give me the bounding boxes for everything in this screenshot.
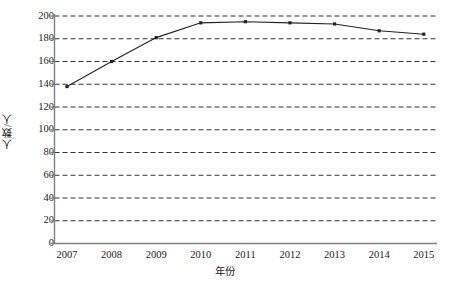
x-tick-label: 2010	[179, 249, 223, 260]
line-chart: 人数/人 020406080100120140160180200 2007200…	[0, 0, 449, 285]
x-axis-title: 年份	[0, 266, 449, 278]
x-tick-label: 2013	[313, 249, 357, 260]
x-tick-label: 2009	[134, 249, 178, 260]
x-tick-label: 2012	[268, 249, 312, 260]
x-tick-label: 2015	[402, 249, 446, 260]
x-axis-tick-labels: 200720082009201020112012201320142015	[0, 0, 449, 285]
x-tick-label: 2011	[223, 249, 267, 260]
x-tick-label: 2007	[45, 249, 89, 260]
x-tick-label: 2008	[90, 249, 134, 260]
x-tick-label: 2014	[357, 249, 401, 260]
